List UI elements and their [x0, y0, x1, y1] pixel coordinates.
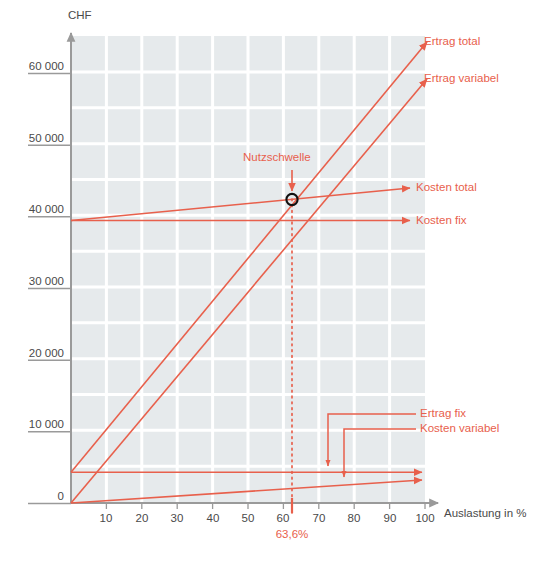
x-tick-label-90: 90 [370, 513, 410, 525]
x-tick-label-70: 70 [299, 513, 339, 525]
break-even-annotation-label: Nutzschwelle [243, 152, 311, 164]
y-tick-label-20000: 20 000 [0, 348, 64, 360]
series-label-kosten-variabel: Kosten variabel [420, 423, 499, 435]
chart-figure: CHF Auslastung in % 60 000 50 000 40 000… [0, 0, 533, 561]
x-tick-label-60: 60 [263, 513, 303, 525]
series-label-ertrag-variabel: Ertrag variabel [424, 73, 499, 85]
break-even-x-value-label: 63,6% [272, 529, 312, 541]
y-axis-title: CHF [68, 10, 92, 22]
y-tick-label-50000: 50 000 [0, 133, 64, 145]
x-tick-label-50: 50 [228, 513, 268, 525]
x-tick-label-80: 80 [334, 513, 374, 525]
series-label-ertrag-fix: Ertrag fix [420, 408, 466, 420]
x-tick-label-40: 40 [193, 513, 233, 525]
x-tick-label-20: 20 [122, 513, 162, 525]
series-label-ertrag-total: Ertrag total [424, 36, 480, 48]
series-label-kosten-total: Kosten total [416, 182, 477, 194]
y-tick-label-40000: 40 000 [0, 204, 64, 216]
x-tick-label-10: 10 [86, 513, 126, 525]
y-tick-label-60000: 60 000 [0, 61, 64, 73]
x-axis-title: Auslastung in % [444, 508, 526, 520]
y-tick-label-30000: 30 000 [0, 276, 64, 288]
y-tick-label-0: 0 [0, 491, 64, 503]
x-tick-label-30: 30 [157, 513, 197, 525]
series-label-kosten-fix: Kosten fix [416, 215, 467, 227]
x-tick-label-100: 100 [405, 513, 445, 525]
y-tick-label-10000: 10 000 [0, 419, 64, 431]
